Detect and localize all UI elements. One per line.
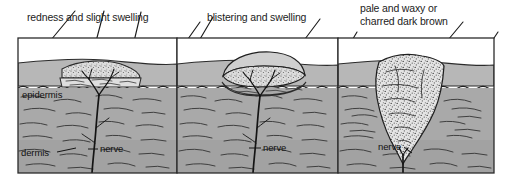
panel-superficial: epidermis dermis nerve [18, 38, 178, 173]
burn-depth-figure: redness and slight swelling blistering a… [0, 0, 505, 178]
panel3-label-nerve: nerve [378, 141, 401, 152]
panel3-caption-line2: charred dark brown [360, 15, 448, 27]
panel-full-thickness: nerve [338, 38, 498, 173]
panel3-caption-line1: pale and waxy or [360, 2, 438, 14]
panel2-dermis-deep [177, 140, 338, 173]
panel2-label-nerve: nerve [263, 142, 286, 153]
panel1-label-dermis: dermis [21, 147, 49, 158]
panel2-caption: blistering and swelling [207, 11, 307, 23]
panel1-caption: redness and slight swelling [27, 11, 149, 23]
panel1-label-epidermis: epidermis [22, 89, 63, 100]
panel1-label-nerve: nerve [100, 143, 123, 154]
panel-partial-thickness: nerve [177, 38, 347, 173]
